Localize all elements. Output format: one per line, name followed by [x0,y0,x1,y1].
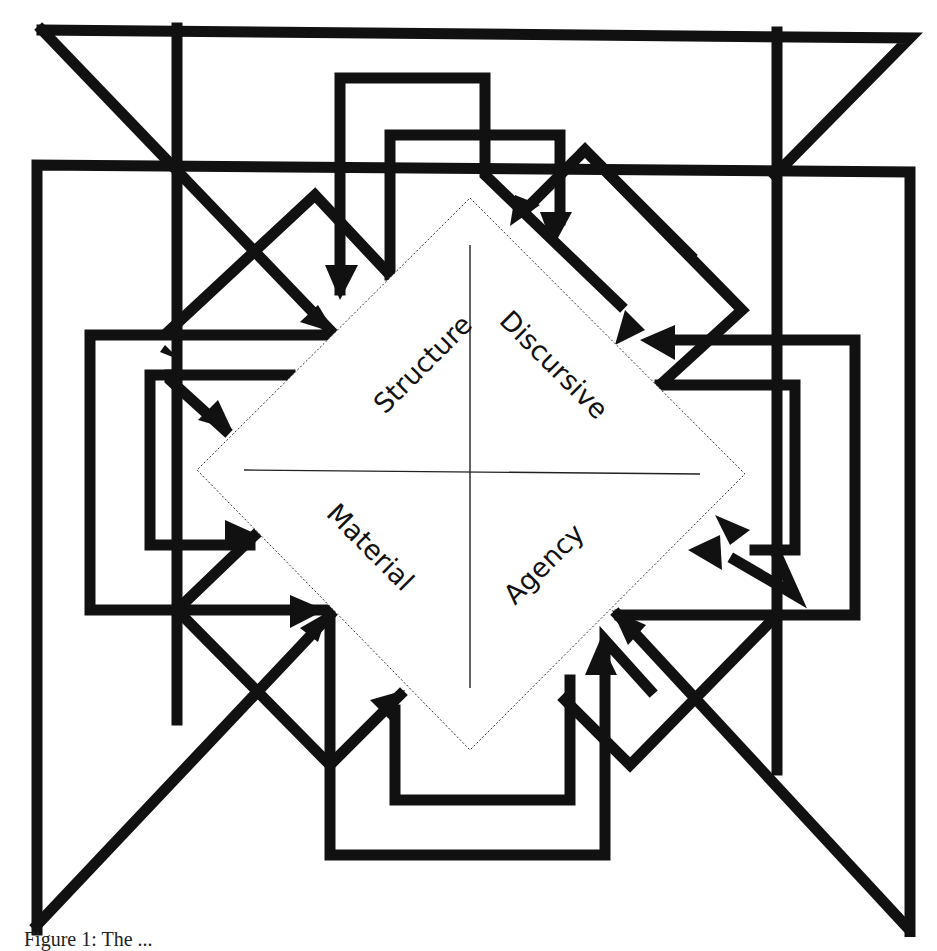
arrowhead-icon [615,310,645,345]
figure-caption: Figure 1: The ... [24,928,153,951]
arrowhead-icon [640,325,675,360]
arrowhead-icon [325,265,358,300]
arrowhead-icon [688,535,722,570]
